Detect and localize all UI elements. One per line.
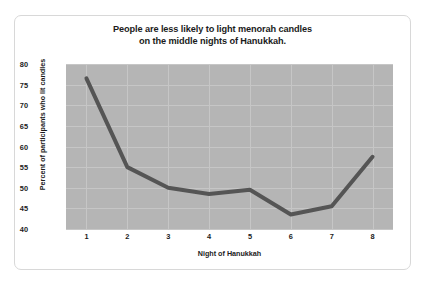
x-axis-tick-label: 7 xyxy=(322,232,342,241)
line-series xyxy=(66,64,393,229)
x-axis-tick-label: 5 xyxy=(240,232,260,241)
chart-card: People are less likely to light menorah … xyxy=(14,15,411,270)
x-axis-tick-label: 2 xyxy=(117,232,137,241)
x-axis-tick-label: 8 xyxy=(363,232,383,241)
y-axis-tick-label: 45 xyxy=(2,204,28,213)
y-axis-tick-label: 70 xyxy=(2,101,28,110)
y-axis-tick-label: 50 xyxy=(2,183,28,192)
chart-title-line-2: on the middle nights of Hanukkah. xyxy=(15,36,410,48)
chart-title: People are less likely to light menorah … xyxy=(15,24,410,47)
gridline-horizontal xyxy=(66,229,393,230)
y-axis-title: Percent of participants who lit candles xyxy=(38,45,47,205)
x-axis-tick-label: 3 xyxy=(158,232,178,241)
series-polyline xyxy=(86,78,372,214)
y-axis-tick-label: 75 xyxy=(2,80,28,89)
y-axis-tick-label: 40 xyxy=(2,225,28,234)
y-axis-tick-label: 55 xyxy=(2,163,28,172)
y-axis-tick-label: 60 xyxy=(2,142,28,151)
chart-title-line-1: People are less likely to light menorah … xyxy=(15,24,410,36)
y-axis-tick-label: 80 xyxy=(2,60,28,69)
y-axis-tick-label: 65 xyxy=(2,121,28,130)
x-axis-tick-label: 4 xyxy=(199,232,219,241)
x-axis-tick-label: 1 xyxy=(76,232,96,241)
x-axis-title: Night of Hanukkah xyxy=(66,249,393,258)
plot-area xyxy=(66,64,393,229)
x-axis-tick-label: 6 xyxy=(281,232,301,241)
